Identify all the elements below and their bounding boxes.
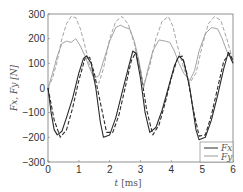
y-axis-label: Fx, Fy [N]: [9, 64, 19, 112]
y-tick-label: −300: [22, 157, 45, 168]
x-tick-label: 2: [107, 164, 113, 175]
chart: −300−200−1000100200300 0123456 Fx Fy t[m…: [0, 0, 243, 192]
y-tick-label: −100: [22, 107, 45, 118]
legend: Fx Fy: [200, 142, 233, 162]
x-tick-label: 3: [138, 164, 144, 175]
y-tick-label: 200: [28, 33, 45, 44]
plot-area: [48, 14, 233, 162]
x-tick-label: 4: [169, 164, 175, 175]
x-axis-label: t[ms]: [115, 178, 142, 188]
y-tick-label: 0: [39, 83, 45, 94]
y-tick-label: 300: [28, 9, 45, 20]
x-tick-label: 5: [199, 164, 205, 175]
x-tick-label: 1: [76, 164, 82, 175]
x-tick-label: 0: [45, 164, 51, 175]
y-tick-label: 100: [28, 58, 45, 69]
legend-fy-label: Fy: [220, 152, 233, 162]
y-tick-label: −200: [22, 132, 45, 143]
y-axis-ticks: −300−200−1000100200300: [22, 9, 50, 168]
x-tick-label: 6: [230, 164, 236, 175]
